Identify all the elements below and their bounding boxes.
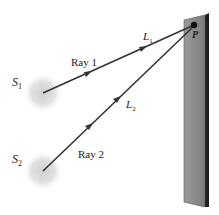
source-s1-label: S1 bbox=[12, 75, 22, 91]
screen bbox=[184, 13, 209, 207]
path-l1-label: L1 bbox=[142, 30, 153, 45]
source-s2-label: S2 bbox=[12, 152, 22, 168]
ray-1: Ray 1 L1 bbox=[43, 25, 194, 93]
screen-edge bbox=[205, 13, 209, 207]
screen-face bbox=[184, 15, 205, 207]
ray-1-arrow-2 bbox=[139, 46, 147, 52]
point-p-label: P bbox=[192, 29, 199, 40]
ray-1-label: Ray 1 bbox=[71, 56, 97, 68]
path-l2-label: L2 bbox=[125, 98, 136, 113]
ray-1-arrow bbox=[84, 71, 92, 77]
ray-1-line bbox=[43, 25, 194, 93]
source-s2: S2 bbox=[12, 151, 63, 191]
point-p-dot bbox=[191, 22, 197, 28]
double-slit-diagram: S1 S2 Ray 1 L1 Ray 2 L2 P bbox=[0, 0, 219, 215]
source-s1: S1 bbox=[12, 73, 63, 113]
ray-2-label: Ray 2 bbox=[78, 148, 104, 160]
ray-2: Ray 2 L2 bbox=[43, 26, 194, 171]
